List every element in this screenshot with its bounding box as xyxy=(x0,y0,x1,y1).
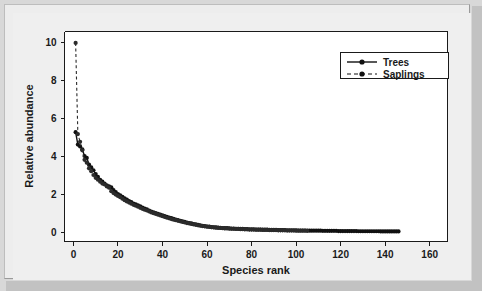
data-point xyxy=(396,229,400,233)
y-tick-label: 6 xyxy=(51,113,57,124)
y-tick-label: 8 xyxy=(51,75,57,86)
x-tick-label: 0 xyxy=(71,249,77,260)
y-tick-label: 2 xyxy=(51,189,57,200)
x-tick-label: 120 xyxy=(332,249,349,260)
chart-legend[interactable]: TreesSaplings xyxy=(341,53,449,80)
legend-label-trees: Trees xyxy=(383,57,410,68)
x-tick-label: 100 xyxy=(288,249,305,260)
x-tick-label: 20 xyxy=(112,249,124,260)
data-point xyxy=(74,41,78,45)
y-tick-label: 0 xyxy=(51,227,57,238)
legend-marker-trees xyxy=(359,59,364,64)
data-point xyxy=(89,169,93,173)
legend-label-saplings: Saplings xyxy=(383,69,425,80)
legend-marker-saplings xyxy=(359,71,364,76)
y-tick-label: 10 xyxy=(45,37,57,48)
x-tick-label: 160 xyxy=(421,249,438,260)
y-axis: 0246810 xyxy=(45,37,64,238)
x-tick-label: 140 xyxy=(377,249,394,260)
data-point xyxy=(76,132,80,136)
x-axis: 020406080100120140160 xyxy=(71,242,439,260)
data-point xyxy=(80,148,84,152)
data-point xyxy=(78,140,82,144)
data-point xyxy=(85,161,89,165)
rank-abundance-chart: 0246810 020406080100120140160 Relative a… xyxy=(0,0,482,291)
x-axis-title: Species rank xyxy=(222,264,291,276)
y-tick-label: 4 xyxy=(51,151,57,162)
figure-container: 0246810 020406080100120140160 Relative a… xyxy=(0,0,482,291)
y-axis-title: Relative abundance xyxy=(23,84,35,187)
x-tick-label: 80 xyxy=(246,249,258,260)
data-point xyxy=(305,229,309,233)
x-tick-label: 60 xyxy=(201,249,213,260)
x-tick-label: 40 xyxy=(157,249,169,260)
